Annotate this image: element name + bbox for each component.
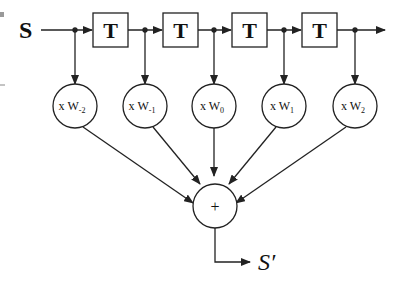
input-label: S — [19, 17, 32, 43]
diagram-canvas: S T T T T x W-2 — [0, 0, 404, 285]
output-label: S′ — [258, 249, 276, 275]
delay-block-1: T — [93, 13, 128, 47]
output-path — [215, 228, 250, 262]
multiplier-w-minus2: x W-2 — [53, 84, 97, 128]
multiplier-w-minus1: x W-1 — [123, 84, 167, 128]
corner-mark — [0, 12, 4, 17]
multiplier-w0: x W0 — [192, 84, 236, 128]
delay-block-2: T — [163, 13, 198, 47]
svg-text:T: T — [103, 18, 118, 43]
summing-junction: + — [193, 184, 237, 228]
svg-text:T: T — [312, 18, 327, 43]
svg-text:T: T — [173, 18, 188, 43]
fir-filter-diagram: S T T T T x W-2 — [0, 0, 404, 285]
multiplier-w1: x W1 — [262, 84, 306, 128]
multiplier-w2: x W2 — [333, 84, 377, 128]
svg-text:+: + — [210, 198, 219, 215]
delay-block-3: T — [232, 13, 267, 47]
svg-text:T: T — [242, 18, 257, 43]
delay-block-4: T — [302, 13, 337, 47]
